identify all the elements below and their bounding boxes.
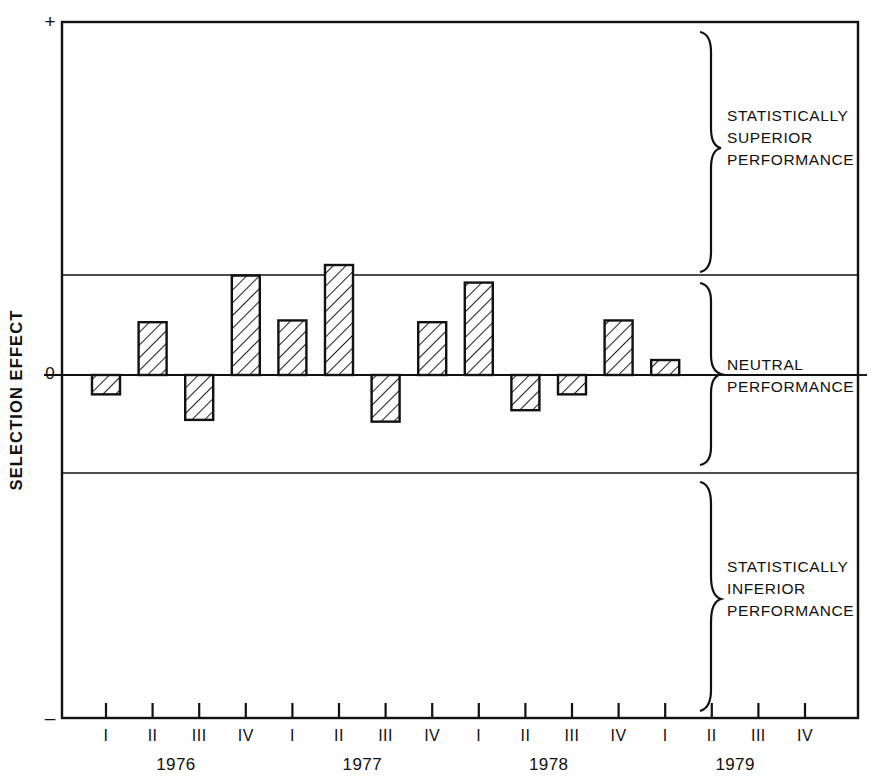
y-axis-zero-label: 0	[45, 364, 54, 383]
bar-1977-iii	[372, 375, 400, 422]
selection-effect-bar-chart: + – 0 SELECTION EFFECT IIIIIIIVIIIIIIIVI…	[0, 0, 871, 784]
bar-1976-ii	[139, 322, 167, 375]
year-label-1979: 1979	[715, 755, 754, 774]
quarter-label-1978-iv: IV	[611, 727, 627, 744]
bar-1976-iv	[232, 276, 260, 375]
quarter-label-1978-iii: III	[565, 727, 580, 744]
quarter-label-1979-i: I	[663, 727, 668, 744]
neutral-label-line-1: NEUTRAL	[727, 356, 804, 373]
neutral-label-line-2: PERFORMANCE	[727, 378, 854, 395]
quarter-label-1976-iii: III	[192, 727, 207, 744]
bar-1976-iii	[185, 375, 213, 420]
quarter-label-1976-ii: II	[148, 727, 158, 744]
quarter-label-1979-ii: II	[707, 727, 717, 744]
superior-label-line-2: SUPERIOR	[727, 129, 813, 146]
year-label-1976: 1976	[156, 755, 195, 774]
y-axis-plus-symbol: +	[44, 11, 55, 32]
bar-1978-ii	[511, 375, 539, 410]
quarter-label-1976-iv: IV	[238, 727, 254, 744]
inferior-label-line-3: PERFORMANCE	[727, 602, 854, 619]
bar-1978-i	[465, 283, 493, 375]
y-axis-minus-symbol: –	[45, 707, 56, 728]
quarter-label-1978-i: I	[476, 727, 481, 744]
bar-1978-iii	[558, 375, 586, 394]
year-label-1977: 1977	[343, 755, 382, 774]
quarter-label-1977-iv: IV	[424, 727, 440, 744]
year-label-1978: 1978	[529, 755, 568, 774]
superior-label-line-1: STATISTICALLY	[727, 107, 849, 124]
inferior-label-line-1: STATISTICALLY	[727, 558, 849, 575]
bar-1979-i	[651, 360, 679, 375]
quarter-label-1979-iii: III	[751, 727, 766, 744]
quarter-label-1977-i: I	[290, 727, 295, 744]
bar-1977-iv	[418, 322, 446, 375]
inferior-label-line-2: INFERIOR	[727, 580, 806, 597]
quarter-label-1978-ii: II	[520, 727, 530, 744]
quarter-label-1976-i: I	[104, 727, 109, 744]
y-axis-title: SELECTION EFFECT	[7, 310, 25, 491]
quarter-label-1977-ii: II	[334, 727, 344, 744]
bar-1978-iv	[605, 320, 633, 375]
superior-label-line-3: PERFORMANCE	[727, 151, 854, 168]
quarter-label-1977-iii: III	[378, 727, 393, 744]
bar-1977-ii	[325, 265, 353, 375]
bar-1977-i	[278, 320, 306, 375]
bar-1976-i	[92, 375, 120, 394]
quarter-label-1979-iv: IV	[797, 727, 813, 744]
chart-figure: + – 0 SELECTION EFFECT IIIIIIIVIIIIIIIVI…	[0, 0, 871, 784]
